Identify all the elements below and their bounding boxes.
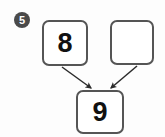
problem-number-badge: 5: [14, 12, 30, 28]
arrow-addend-2-to-sum: [111, 66, 137, 88]
number-box-addend-2[interactable]: [110, 20, 154, 65]
arrow-addend-1-to-sum: [62, 67, 91, 88]
number-box-sum[interactable]: 9: [76, 90, 124, 134]
number-box-sum-value: 9: [92, 99, 107, 126]
number-box-addend-1[interactable]: 8: [42, 20, 88, 66]
number-box-addend-1-value: 8: [57, 30, 72, 57]
worksheet-problem: 5 8 9: [0, 0, 165, 137]
